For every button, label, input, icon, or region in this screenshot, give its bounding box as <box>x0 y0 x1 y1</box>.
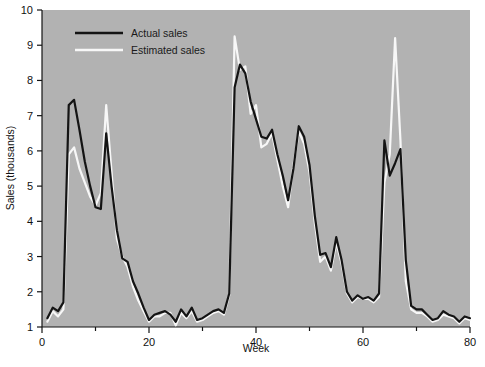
x-tick-label: 60 <box>357 336 369 348</box>
sales-line-chart: 12345678910 020406080 Actual salesEstima… <box>0 0 485 367</box>
y-axis-title: Sales (thousands) <box>4 126 16 211</box>
x-tick-label: 0 <box>39 336 45 348</box>
y-tick-label: 1 <box>27 321 33 333</box>
x-tick-label: 20 <box>143 336 155 348</box>
y-tick-label: 10 <box>21 4 33 16</box>
x-axis-title: Week <box>243 342 270 354</box>
y-tick-label: 5 <box>27 180 33 192</box>
chart-page: 12345678910 020406080 Actual salesEstima… <box>0 0 485 367</box>
y-tick-label: 2 <box>27 286 33 298</box>
y-tick-label: 7 <box>27 110 33 122</box>
y-tick-label: 4 <box>27 215 33 227</box>
legend-label-1: Estimated sales <box>131 44 205 56</box>
y-tick-label: 9 <box>27 39 33 51</box>
legend-label-0: Actual sales <box>131 27 188 39</box>
x-tick-label: 80 <box>464 336 476 348</box>
y-tick-label: 8 <box>27 74 33 86</box>
y-tick-label: 3 <box>27 251 33 263</box>
y-tick-label: 6 <box>27 145 33 157</box>
